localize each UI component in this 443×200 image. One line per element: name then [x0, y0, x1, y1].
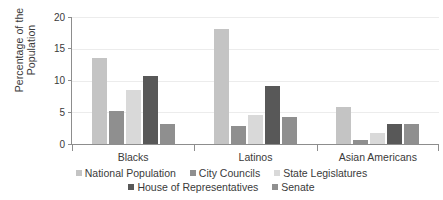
bar	[387, 124, 402, 144]
y-axis-tick: 10	[54, 75, 72, 87]
legend-item[interactable]: State Legislatures	[274, 167, 367, 179]
x-axis-labels: BlacksLatinosAsian Americans	[72, 151, 439, 163]
legend-swatch-icon	[190, 170, 196, 176]
y-axis-tick: 15	[54, 43, 72, 55]
y-axis-tick: 20	[54, 11, 72, 23]
bar	[282, 117, 297, 144]
bar	[248, 115, 263, 144]
bar-chart: Percentage of the Population 05101520 Bl…	[0, 0, 443, 200]
y-axis-tick-label: 5	[59, 107, 68, 118]
legend-swatch-icon	[128, 184, 134, 190]
legend-item[interactable]: House of Representatives	[128, 181, 258, 193]
bar-group	[194, 17, 316, 144]
bar	[109, 111, 124, 144]
x-axis-separator	[72, 145, 73, 151]
bar	[126, 90, 141, 144]
legend-item[interactable]: Senate	[272, 181, 314, 193]
bar	[370, 133, 385, 144]
legend-swatch-icon	[274, 170, 280, 176]
legend-label: Senate	[281, 181, 314, 193]
bar-group	[317, 17, 439, 144]
legend-swatch-icon	[76, 170, 82, 176]
bar	[160, 124, 175, 144]
chart-legend: National PopulationCity CouncilsState Le…	[0, 166, 443, 194]
y-axis-tick-label: 10	[54, 75, 68, 86]
bar	[231, 126, 246, 144]
legend-label: State Legislatures	[283, 167, 367, 179]
legend-label: National Population	[85, 167, 176, 179]
bar	[143, 76, 158, 144]
y-axis-tick-label: 0	[59, 139, 68, 150]
bar	[92, 58, 107, 144]
bar	[336, 107, 351, 144]
bar	[404, 124, 419, 144]
x-axis-separator	[438, 145, 439, 151]
x-axis-separator	[317, 145, 318, 151]
legend-row: National PopulationCity CouncilsState Le…	[0, 166, 443, 180]
y-axis-tick-label: 20	[54, 12, 68, 23]
x-axis-label: Blacks	[72, 151, 194, 163]
legend-item[interactable]: National Population	[76, 167, 176, 179]
x-axis-separator	[194, 145, 195, 151]
bar-group	[72, 17, 194, 144]
x-axis-label: Asian Americans	[317, 151, 439, 163]
legend-row: House of RepresentativesSenate	[0, 180, 443, 194]
x-axis-label: Latinos	[194, 151, 316, 163]
legend-label: City Councils	[199, 167, 260, 179]
legend-item[interactable]: City Councils	[190, 167, 260, 179]
bar-groups	[72, 17, 439, 144]
legend-swatch-icon	[272, 184, 278, 190]
legend-label: House of Representatives	[137, 181, 258, 193]
bar	[265, 86, 280, 144]
y-axis-tick-label: 15	[54, 43, 68, 54]
y-axis-ticks: 05101520	[0, 0, 72, 161]
bar	[214, 29, 229, 144]
x-axis-line	[71, 144, 439, 145]
